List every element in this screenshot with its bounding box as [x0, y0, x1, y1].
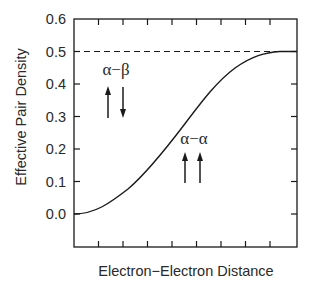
arrow-down-icon	[120, 87, 126, 118]
annotation-alpha-beta: α−β	[102, 60, 129, 79]
x-axis-label: Electron−Electron Distance	[98, 263, 273, 279]
arrow-up-icon	[182, 152, 188, 183]
y-tick-4: 0.4	[46, 76, 66, 92]
y-tick-2: 0.2	[46, 141, 66, 157]
y-ticks-right	[291, 52, 297, 215]
y-tick-3: 0.3	[46, 109, 66, 125]
annotation-alpha-alpha: α−α	[180, 129, 207, 148]
y-tick-labels: 0.0 0.1 0.2 0.3 0.4 0.5 0.6	[46, 11, 66, 222]
arrow-up-icon	[105, 86, 111, 118]
arrow-up-icon	[197, 152, 203, 183]
y-tick-1: 0.1	[46, 174, 66, 190]
y-tick-0: 0.0	[46, 206, 66, 222]
y-axis-label: Effective Pair Density	[13, 47, 29, 185]
y-tick-6: 0.6	[46, 11, 66, 27]
y-ticks-left	[74, 52, 80, 215]
pair-density-chart: 0.0 0.1 0.2 0.3 0.4 0.5 0.6 Effective Pa…	[0, 0, 311, 290]
x-ticks-top	[99, 19, 271, 25]
y-tick-5: 0.5	[46, 44, 66, 60]
x-ticks-bottom	[99, 241, 271, 247]
